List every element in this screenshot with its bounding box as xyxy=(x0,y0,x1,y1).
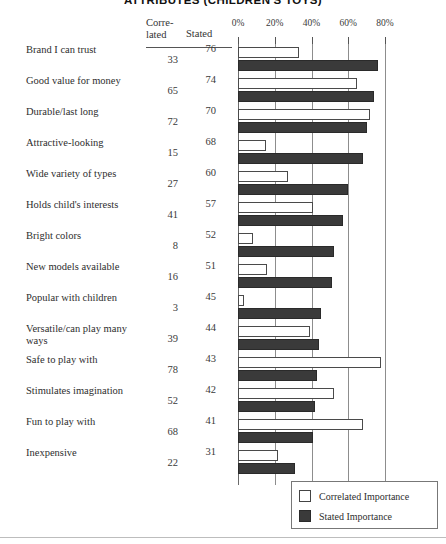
bar-stated xyxy=(238,308,321,319)
attribute-row: Durable/last long7270 xyxy=(0,107,238,138)
bar-correlated xyxy=(238,171,288,182)
column-header-stated: Stated xyxy=(186,28,230,39)
value-stated: 45 xyxy=(182,291,216,302)
attribute-row: Popular with children345 xyxy=(0,293,238,324)
attribute-label: Holds child's interests xyxy=(26,199,146,211)
bar-stated xyxy=(238,370,317,381)
bar-stated xyxy=(238,401,315,412)
value-correlated: 39 xyxy=(146,333,178,344)
bar-correlated xyxy=(238,388,334,399)
bar-correlated xyxy=(238,202,313,213)
value-correlated: 8 xyxy=(146,240,178,251)
value-correlated: 33 xyxy=(146,54,178,65)
bar-stated xyxy=(238,122,367,133)
legend-label-stated: Stated Importance xyxy=(319,511,392,522)
gridline-80 xyxy=(385,37,386,485)
bar-row xyxy=(238,200,385,231)
attribute-row: Versatile/can play many ways3944 xyxy=(0,324,238,355)
value-stated: 70 xyxy=(182,105,216,116)
column-header-correlated: Corre- lated xyxy=(146,17,184,40)
value-stated: 41 xyxy=(182,415,216,426)
legend-item-correlated: Correlated Importance xyxy=(299,487,409,505)
attribute-label: Attractive-looking xyxy=(26,137,146,149)
value-correlated: 78 xyxy=(146,364,178,375)
bar-stated xyxy=(238,184,348,195)
tick-label-40: 40% xyxy=(303,18,320,28)
attribute-row: Fun to play with6841 xyxy=(0,417,238,448)
bar-row xyxy=(238,138,385,169)
attribute-row: Stimulates imagination5242 xyxy=(0,386,238,417)
value-stated: 52 xyxy=(182,229,216,240)
attribute-label: Bright colors xyxy=(26,230,146,242)
column-header-correlated-line1: Corre- xyxy=(146,17,173,28)
value-stated: 60 xyxy=(182,167,216,178)
bar-correlated xyxy=(238,140,266,151)
bar-correlated xyxy=(238,450,278,461)
attribute-row: Attractive-looking1568 xyxy=(0,138,238,169)
bar-row xyxy=(238,45,385,76)
attribute-row: Inexpensive2231 xyxy=(0,448,238,479)
attribute-label: Popular with children xyxy=(26,292,146,304)
value-correlated: 41 xyxy=(146,209,178,220)
bar-row xyxy=(238,107,385,138)
attribute-label: Durable/last long xyxy=(26,106,146,118)
tick-label-20: 20% xyxy=(266,18,283,28)
value-correlated: 52 xyxy=(146,395,178,406)
bar-stated xyxy=(238,432,313,443)
attribute-label: Inexpensive xyxy=(26,447,146,459)
attribute-row: Good value for money6574 xyxy=(0,76,238,107)
footer-divider xyxy=(0,537,446,538)
bar-correlated xyxy=(238,47,299,58)
attribute-label: Brand I can trust xyxy=(26,44,146,56)
value-stated: 57 xyxy=(182,198,216,209)
value-stated: 51 xyxy=(182,260,216,271)
tick-label-80: 80% xyxy=(376,18,393,28)
bar-stated xyxy=(238,339,319,350)
tick-label-60: 60% xyxy=(340,18,357,28)
bar-row xyxy=(238,262,385,293)
bar-row xyxy=(238,231,385,262)
tick-mark-20 xyxy=(275,37,276,44)
value-correlated: 15 xyxy=(146,147,178,158)
tick-label-0: 0% xyxy=(232,18,245,28)
attribute-row: New models available1651 xyxy=(0,262,238,293)
value-stated: 76 xyxy=(182,43,216,54)
value-correlated: 16 xyxy=(146,271,178,282)
attribute-row: Wide variety of types2760 xyxy=(0,169,238,200)
attribute-row: Safe to play with7843 xyxy=(0,355,238,386)
legend-swatch-correlated-icon xyxy=(299,490,311,502)
bar-row xyxy=(238,293,385,324)
value-stated: 44 xyxy=(182,322,216,333)
tick-mark-80 xyxy=(385,37,386,44)
attribute-row: Brand I can trust3376 xyxy=(0,45,238,76)
legend-item-stated: Stated Importance xyxy=(299,507,392,525)
bar-stated xyxy=(238,277,332,288)
bar-correlated xyxy=(238,419,363,430)
bar-correlated xyxy=(238,326,310,337)
tick-mark-0 xyxy=(238,37,239,44)
bar-chart-plot: 0%20%40%60%80% xyxy=(238,45,385,485)
value-correlated: 65 xyxy=(146,85,178,96)
attribute-label: Versatile/can play many ways xyxy=(26,323,146,346)
attribute-label: Stimulates imagination xyxy=(26,385,146,397)
attribute-label: New models available xyxy=(26,261,146,273)
value-stated: 42 xyxy=(182,384,216,395)
bar-row xyxy=(238,76,385,107)
bar-correlated xyxy=(238,233,253,244)
bar-correlated xyxy=(238,357,381,368)
legend-swatch-stated-icon xyxy=(299,510,311,522)
value-correlated: 68 xyxy=(146,426,178,437)
attribute-row: Bright colors852 xyxy=(0,231,238,262)
tick-mark-40 xyxy=(312,37,313,44)
bar-row xyxy=(238,355,385,386)
bar-stated xyxy=(238,60,378,71)
value-stated: 68 xyxy=(182,136,216,147)
column-header-correlated-line2: lated xyxy=(146,29,166,40)
value-stated: 74 xyxy=(182,74,216,85)
value-correlated: 3 xyxy=(146,302,178,313)
attribute-label: Safe to play with xyxy=(26,354,146,366)
bar-correlated xyxy=(238,264,267,275)
attribute-label: Good value for money xyxy=(26,75,146,87)
attribute-label: Fun to play with xyxy=(26,416,146,428)
value-correlated: 72 xyxy=(146,116,178,127)
